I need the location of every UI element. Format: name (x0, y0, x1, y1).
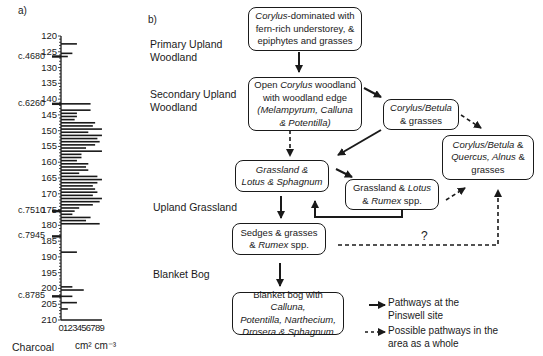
box-text: Open Corylus woodland with woodland edge… (254, 79, 355, 129)
text: fern-rich understorey, & (256, 23, 355, 34)
box-text: Corylus/Betula & grasses (390, 102, 452, 127)
taxon: Corylus (255, 10, 287, 21)
taxon: & Potentilla) (279, 117, 330, 128)
text: & grasses (400, 115, 442, 126)
taxon: Corylus/Betula (453, 139, 515, 150)
text: Sedges & grasses (240, 227, 317, 238)
text: spp. (288, 239, 309, 250)
box-corylus-dominated: Corylus-dominated with fern-rich underst… (248, 7, 362, 51)
text: & (362, 195, 371, 206)
text: Blanket bog with (253, 289, 323, 300)
taxon: Rumex (371, 195, 401, 206)
taxon: Potentilla, Narthecium, (240, 314, 336, 325)
text: & (516, 151, 525, 162)
legend-line: area as a whole (388, 338, 498, 351)
box-text: Grassland & Lotus & Sphagnum (242, 164, 323, 189)
box-open-corylus-woodland: Open Corylus woodland with woodland edge… (248, 77, 362, 131)
box-text: Corylus/Betula & Quercus, Alnus & grasse… (451, 139, 525, 177)
text: epiphytes and grasses (257, 35, 352, 46)
legend-solid: Pathways at the Pinswell site (388, 297, 459, 322)
text: -dominated with (288, 10, 355, 21)
taxon: Lotus & Sphagnum (242, 176, 323, 187)
legend-line: Possible pathways in the (388, 325, 498, 338)
text: with woodland edge (263, 92, 347, 103)
taxon: Corylus/Betula (390, 102, 452, 113)
taxon: Drosera & Sphagnum (242, 326, 333, 337)
uncertain-pathway-question-mark: ? (421, 229, 428, 243)
taxon: Lotus (408, 182, 431, 193)
text: spp. (401, 195, 422, 206)
box-corylus-betula-grasses: Corylus/Betula & grasses (383, 99, 459, 130)
text: Open (254, 79, 280, 90)
box-corylus-betula-quercus-alnus: Corylus/Betula & Quercus, Alnus & grasse… (442, 135, 534, 180)
text: woodland (312, 79, 355, 90)
box-text: Grassland & Lotus & Rumex spp. (353, 182, 431, 207)
box-text: Sedges & grasses & Rumex spp. (240, 227, 317, 252)
box-text: Corylus-dominated with fern-rich underst… (255, 10, 354, 48)
text: grasses (471, 164, 504, 175)
box-sedges-grasses-rumex: Sedges & grasses & Rumex spp. (232, 223, 326, 255)
taxon: Corylus (280, 79, 312, 90)
text: & (514, 139, 523, 150)
legend-line: Pathways at the (388, 297, 459, 310)
taxon: Grassland & (256, 164, 308, 175)
legend-dashed: Possible pathways in the area as a whole (388, 325, 498, 350)
box-grassland-lotus-sphagnum: Grassland & Lotus & Sphagnum (235, 160, 329, 192)
box-text: Blanket bog with Calluna, Potentilla, Na… (236, 289, 340, 339)
taxon: Quercus, Alnus (451, 151, 516, 162)
box-blanket-bog: Blanket bog with Calluna, Potentilla, Na… (232, 292, 344, 335)
legend-line: Pinswell site (388, 310, 459, 323)
box-grassland-lotus-rumex: Grassland & Lotus & Rumex spp. (345, 179, 439, 210)
taxon: Rumex (258, 239, 288, 250)
taxon: Calluna, (271, 301, 306, 312)
text: & (249, 239, 258, 250)
taxon: (Melampyrum, Calluna (257, 104, 353, 115)
text: Grassland & (353, 182, 408, 193)
